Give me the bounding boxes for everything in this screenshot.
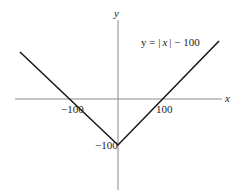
x-tick-neg100: −100 [61, 103, 84, 115]
graph-canvas: x y −100 100 −100 y = |x| − 100 [0, 0, 238, 196]
y-axis-label: y [113, 7, 119, 19]
x-axis-label: x [224, 92, 230, 104]
y-tick-neg100: −100 [95, 139, 118, 151]
equation-label: y = |x| − 100 [141, 36, 200, 48]
equation-lhs: y = [141, 36, 158, 48]
equation-bar-open: | [158, 36, 160, 48]
equation-var: x [161, 36, 167, 48]
function-curve [20, 41, 219, 145]
equation-rhs: − 100 [172, 36, 201, 48]
x-tick-100: 100 [156, 103, 173, 115]
